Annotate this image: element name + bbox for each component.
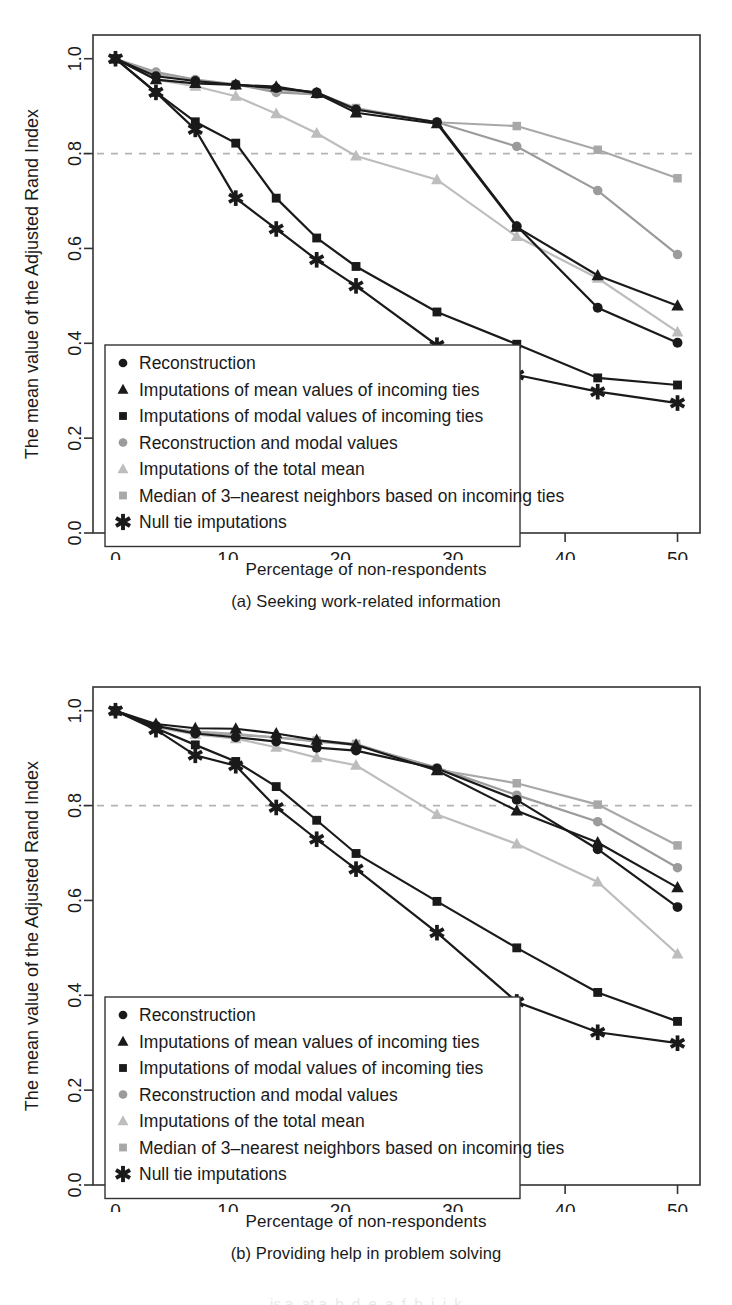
x-tick-label: 20: [330, 548, 351, 560]
marker-triangle: [350, 150, 362, 161]
legend-item[interactable]: Imputations of mean values of incoming t…: [118, 1032, 480, 1052]
marker-circle: [593, 817, 603, 827]
legend-label: Imputations of modal values of incoming …: [139, 1058, 484, 1078]
y-tick-label: 0.2: [65, 1078, 85, 1103]
legend-item[interactable]: Imputations of the total mean: [118, 459, 365, 479]
legend: ReconstructionImputations of mean values…: [105, 345, 564, 547]
legend-item[interactable]: Reconstruction and modal values: [119, 1085, 398, 1105]
legend-label: Imputations of the total mean: [139, 459, 365, 479]
marker-square: [513, 122, 522, 131]
marker-triangle: [431, 808, 443, 819]
marker-square: [513, 779, 522, 788]
legend-label: Imputations of the total mean: [139, 1111, 365, 1131]
legend-item[interactable]: Reconstruction: [119, 1005, 256, 1025]
marker-square: [231, 139, 240, 148]
series-1: [109, 52, 683, 310]
marker-square: [593, 800, 602, 809]
marker-square: [673, 1017, 682, 1026]
marker-circle: [593, 303, 603, 313]
panel-caption-b: (b) Providing help in problem solving: [0, 1244, 732, 1263]
x-tick-label: 30: [442, 548, 463, 560]
marker-circle: [512, 142, 522, 152]
series-0: [111, 54, 683, 348]
marker-square: [352, 262, 361, 271]
x-axis-title-b: Percentage of non-respondents: [0, 1212, 732, 1232]
marker-square: [312, 234, 321, 243]
marker-square: [433, 308, 442, 317]
marker-square: [352, 849, 361, 858]
series-line: [115, 59, 677, 385]
x-tick-label: 0: [110, 548, 121, 560]
legend-item[interactable]: Reconstruction and modal values: [119, 433, 398, 453]
y-tick-label: 1.0: [65, 46, 85, 71]
marker-triangle: [671, 881, 683, 892]
legend-label: Imputations of mean values of incoming t…: [139, 1032, 480, 1052]
y-tick-label: 0.2: [65, 426, 85, 451]
marker-square: [593, 988, 602, 997]
y-tick-label: 0.0: [65, 520, 85, 545]
marker-square: [119, 492, 127, 500]
marker-square: [119, 1144, 127, 1152]
x-tick-label: 30: [442, 1200, 463, 1212]
legend-label: Imputations of modal values of incoming …: [139, 406, 484, 426]
series-2: [111, 54, 682, 389]
marker-asterisk: [349, 861, 363, 877]
y-tick-label: 1.0: [65, 698, 85, 723]
legend-label: Imputations of mean values of incoming t…: [139, 380, 480, 400]
chart-a: 0.00.20.40.60.81.001020304050The mean va…: [0, 0, 732, 560]
marker-square: [673, 174, 682, 183]
x-tick-label: 40: [555, 548, 576, 560]
y-tick-label: 0.6: [65, 888, 85, 913]
y-tick-label: 0.8: [65, 793, 85, 818]
legend-label: Reconstruction: [139, 1005, 256, 1025]
y-axis-title: The mean value of the Adjusted Rand Inde…: [22, 761, 42, 1111]
legend-label: Reconstruction and modal values: [139, 433, 398, 453]
marker-circle: [673, 338, 683, 348]
marker-circle: [231, 732, 241, 742]
legend-item[interactable]: Imputations of modal values of incoming …: [119, 406, 484, 426]
x-tick-label: 40: [555, 1200, 576, 1212]
legend-item[interactable]: Imputations of mean values of incoming t…: [118, 380, 480, 400]
marker-square: [272, 194, 281, 203]
y-tick-label: 0.4: [65, 983, 85, 1008]
legend-label: Median of 3–nearest neighbors based on i…: [139, 486, 564, 506]
legend-label: Null tie imputations: [139, 512, 287, 532]
x-tick-label: 10: [217, 548, 238, 560]
legend-item[interactable]: Null tie imputations: [116, 512, 287, 532]
series-line: [115, 59, 677, 343]
marker-square: [593, 373, 602, 382]
marker-asterisk: [229, 190, 243, 206]
marker-asterisk: [310, 252, 324, 268]
legend-item[interactable]: Median of 3–nearest neighbors based on i…: [119, 486, 564, 506]
panel-seeking-work-related-information: 0.00.20.40.60.81.001020304050The mean va…: [0, 0, 732, 640]
marker-square: [119, 1064, 127, 1072]
marker-circle: [673, 902, 683, 912]
legend-item[interactable]: Imputations of the total mean: [118, 1111, 365, 1131]
x-tick-label: 0: [110, 1200, 121, 1212]
legend-label: Reconstruction and modal values: [139, 1085, 398, 1105]
marker-square: [673, 841, 682, 850]
legend-item[interactable]: Median of 3–nearest neighbors based on i…: [119, 1138, 564, 1158]
x-tick-label: 50: [667, 548, 688, 560]
marker-square: [593, 146, 602, 155]
legend-item[interactable]: Null tie imputations: [116, 1164, 287, 1184]
marker-triangle: [672, 326, 684, 337]
x-tick-label: 20: [330, 1200, 351, 1212]
marker-square: [512, 943, 521, 952]
legend-label: Median of 3–nearest neighbors based on i…: [139, 1138, 564, 1158]
series-1: [109, 704, 683, 892]
marker-asterisk: [189, 747, 203, 763]
y-tick-label: 0.4: [65, 331, 85, 356]
marker-circle: [119, 1011, 128, 1020]
panel-providing-help-in-problem-solving: 0.00.20.40.60.81.001020304050The mean va…: [0, 652, 732, 1292]
marker-square: [119, 412, 127, 420]
legend-item[interactable]: Imputations of modal values of incoming …: [119, 1058, 484, 1078]
y-axis-title: The mean value of the Adjusted Rand Inde…: [22, 109, 42, 459]
marker-triangle: [511, 230, 523, 241]
x-tick-label: 10: [217, 1200, 238, 1212]
marker-circle: [593, 186, 603, 196]
legend-item[interactable]: Reconstruction: [119, 353, 256, 373]
chart-b: 0.00.20.40.60.81.001020304050The mean va…: [0, 652, 732, 1212]
marker-asterisk: [349, 278, 363, 294]
page-bottom-partial-text: is a, at a, b, d, e, a, f, h, i, j, k: [0, 1291, 732, 1305]
